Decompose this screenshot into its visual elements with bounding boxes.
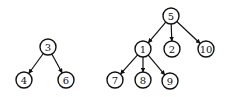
node-6: 6 xyxy=(58,72,74,88)
node-7: 7 xyxy=(107,72,123,88)
node-label: 9 xyxy=(167,76,173,87)
edge-1-to-9 xyxy=(148,55,165,75)
edge-5-to-2 xyxy=(171,24,172,41)
node-1: 1 xyxy=(135,41,151,57)
node-label: 5 xyxy=(168,11,174,22)
edge-5-to-10 xyxy=(177,22,200,44)
edge-1-to-7 xyxy=(120,55,137,74)
node-8: 8 xyxy=(135,72,151,88)
node-10: 10 xyxy=(198,41,214,57)
tree-diagram: 34651210789 xyxy=(0,0,227,97)
edge-3-to-4 xyxy=(29,54,44,74)
node-label: 2 xyxy=(169,44,175,55)
node-label: 4 xyxy=(21,75,27,86)
edge-5-to-1 xyxy=(148,22,166,43)
edge-3-to-6 xyxy=(52,54,62,73)
node-9: 9 xyxy=(162,73,178,89)
node-label: 7 xyxy=(112,75,118,86)
node-label: 3 xyxy=(45,42,51,53)
node-2: 2 xyxy=(164,41,180,57)
node-label: 8 xyxy=(140,75,146,86)
node-4: 4 xyxy=(16,72,32,88)
node-label: 10 xyxy=(200,44,213,55)
node-label: 6 xyxy=(63,75,69,86)
node-5: 5 xyxy=(163,8,179,24)
node-label: 1 xyxy=(140,44,146,55)
node-3: 3 xyxy=(40,39,56,55)
nodes-layer: 34651210789 xyxy=(16,8,214,89)
